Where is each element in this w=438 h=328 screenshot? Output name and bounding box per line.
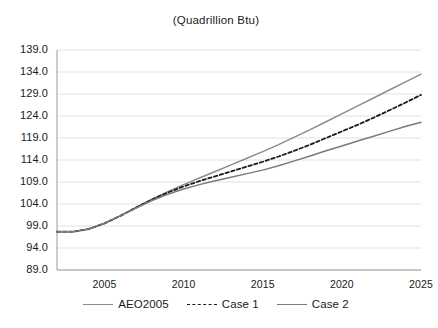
legend-item[interactable]: Case 2 (277, 298, 349, 310)
y-axis-tick-label: 114.0 (4, 153, 48, 165)
y-axis-tick-label: 89.0 (4, 263, 48, 275)
y-axis-tick-label: 94.0 (4, 241, 48, 253)
series-line (57, 95, 421, 232)
x-axis-tick-label: 2015 (238, 278, 288, 290)
series-line (57, 122, 421, 232)
y-axis-tick-label: 124.0 (4, 109, 48, 121)
y-axis-tick-label: 99.0 (4, 219, 48, 231)
legend-line-icon (83, 304, 113, 305)
legend-item-label: Case 1 (222, 298, 259, 310)
series-line (57, 74, 421, 232)
legend-item-label: AEO2005 (118, 298, 169, 310)
x-axis-tick-label: 2010 (159, 278, 209, 290)
x-axis-tick-label: 2025 (396, 278, 438, 290)
gridlines (57, 50, 421, 270)
x-axis-tick-label: 2020 (317, 278, 367, 290)
y-axis-tick-label: 119.0 (4, 131, 48, 143)
x-axis-tick-label: 2005 (79, 278, 129, 290)
series-lines (57, 74, 421, 232)
y-axis-tick-label: 109.0 (4, 175, 48, 187)
legend-item[interactable]: AEO2005 (83, 298, 169, 310)
y-axis-tick-label: 134.0 (4, 65, 48, 77)
y-axis-tick-label: 129.0 (4, 87, 48, 99)
y-axis-tick-label: 104.0 (4, 197, 48, 209)
legend-line-icon (277, 304, 307, 305)
chart-legend: AEO2005Case 1Case 2 (0, 298, 432, 310)
legend-item-label: Case 2 (312, 298, 349, 310)
y-axis-tick-label: 139.0 (4, 43, 48, 55)
legend-item[interactable]: Case 1 (187, 298, 259, 310)
legend-line-icon (187, 304, 217, 305)
